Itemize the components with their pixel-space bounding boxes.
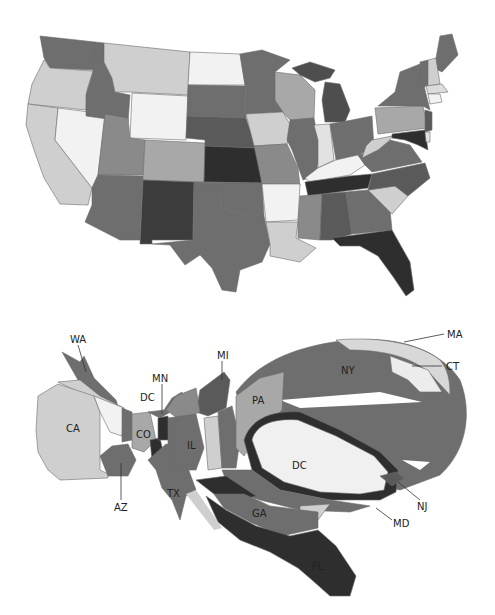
label-ny: NY bbox=[341, 365, 355, 376]
label-az: AZ bbox=[114, 502, 128, 513]
label-fl: FL bbox=[312, 561, 324, 572]
state-sd bbox=[187, 85, 246, 118]
state-mt bbox=[104, 43, 190, 95]
state-de bbox=[425, 132, 430, 142]
label-md: MD bbox=[393, 518, 410, 529]
state-wa bbox=[40, 36, 95, 70]
state-ar bbox=[262, 184, 300, 222]
label-ct: CT bbox=[446, 361, 460, 372]
label-ga: GA bbox=[252, 508, 267, 519]
label-dc: DC bbox=[292, 460, 307, 471]
state-nj bbox=[425, 110, 432, 132]
state-ia bbox=[246, 112, 292, 146]
label-mn: MN bbox=[152, 373, 168, 384]
carto-il bbox=[168, 414, 204, 470]
carto-ut bbox=[122, 408, 132, 442]
label-nj: NJ bbox=[417, 501, 427, 512]
figure-canvas: WA CA AZ CO DC MN MI IL TX PA NY DC MA C… bbox=[0, 0, 495, 615]
geographic-map bbox=[26, 34, 458, 296]
cartogram: WA CA AZ CO DC MN MI IL TX PA NY DC MA C… bbox=[36, 329, 466, 596]
state-wy bbox=[130, 93, 188, 140]
state-nd bbox=[188, 52, 245, 85]
state-ms bbox=[298, 194, 322, 240]
label-co: CO bbox=[136, 429, 151, 440]
state-me bbox=[436, 34, 458, 72]
label-mi: MI bbox=[217, 350, 229, 361]
label-wa: WA bbox=[70, 334, 86, 345]
label-ca: CA bbox=[66, 423, 80, 434]
leader-ma bbox=[404, 334, 444, 342]
label-ma: MA bbox=[447, 329, 463, 340]
state-ma bbox=[426, 84, 448, 94]
carto-az bbox=[100, 444, 136, 476]
label-pa: PA bbox=[252, 395, 264, 406]
state-az bbox=[85, 175, 143, 240]
state-fl bbox=[332, 230, 414, 296]
label-il: IL bbox=[187, 440, 196, 451]
state-nm bbox=[140, 180, 194, 244]
state-co bbox=[143, 140, 205, 182]
state-ct bbox=[428, 94, 442, 104]
label-dc-west: DC bbox=[140, 392, 155, 403]
state-pa bbox=[375, 106, 428, 134]
leader-md bbox=[376, 508, 392, 520]
label-tx: TX bbox=[166, 488, 180, 499]
state-ks bbox=[204, 146, 262, 183]
